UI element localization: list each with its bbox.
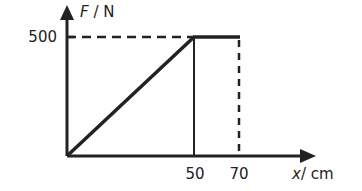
y-axis-arrow-icon [60, 5, 74, 20]
x-tick-label-50: 50 [185, 165, 204, 183]
x-axis-label: x/ cm [291, 165, 334, 183]
force-extension-chart: F / N 500 50 70 x/ cm [0, 0, 362, 191]
x-axis-arrow-icon [300, 149, 316, 163]
rising-line [67, 37, 194, 156]
x-axis-var: x [291, 165, 301, 183]
y-axis-label: F / N [80, 3, 114, 21]
y-tick-label-500: 500 [28, 28, 57, 46]
x-tick-label-70: 70 [229, 165, 248, 183]
y-axis-unit: / N [89, 3, 115, 21]
y-axis-var: F [80, 3, 89, 21]
x-axis-unit: / cm [301, 165, 334, 183]
